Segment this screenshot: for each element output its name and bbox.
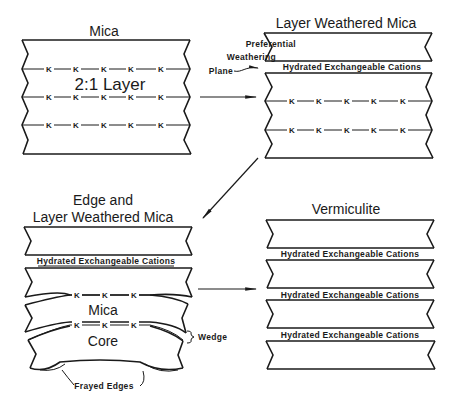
mica-row3-k-ion: K [158, 121, 164, 130]
mica-row1-k-ion: K [128, 65, 134, 74]
lw-row2-k-ion: K [316, 126, 322, 135]
edge-title-line1: Edge and [73, 192, 133, 208]
elw-row1-k-ion: K [74, 291, 80, 300]
mica-row2-k-ion: K [101, 93, 107, 102]
lw-lower-block [265, 73, 433, 158]
two-one-layer-label: 2:1 Layer [75, 75, 146, 94]
elw-row1-k-ion: K [131, 291, 137, 300]
mica-row2-k-ion: K [73, 93, 79, 102]
elw-row2-k-ion: K [131, 321, 137, 330]
panel-mica: Mica 2:1 Layer [22, 23, 191, 154]
vm-hec-label-2: Hydrated Exchangeable Cations [281, 290, 420, 300]
plane-label: Plane [209, 66, 233, 76]
lw-row1-k-ion: K [316, 97, 322, 106]
mica-core-label-mica: Mica [88, 302, 118, 318]
elw-hec-label: Hydrated Exchangeable Cations [37, 256, 176, 266]
elw-row2-k-ion: K [74, 321, 80, 330]
lw-hec-label: Hydrated Exchangeable Cations [283, 62, 422, 72]
vm-block-1 [266, 220, 434, 248]
mica-row2-k-ion: K [158, 93, 164, 102]
vermiculite-title: Vermiculite [312, 201, 381, 217]
elw-row1-k-ion: K [102, 291, 108, 300]
vm-block-3 [266, 300, 434, 328]
lw-row1-k-ion: K [344, 97, 350, 106]
mica-row1-k-ion: K [46, 65, 52, 74]
arrow-diagonal [203, 158, 258, 218]
wedge-label: Wedge [198, 332, 227, 342]
vm-block-4 [266, 341, 435, 369]
vm-hec-label-1: Hydrated Exchangeable Cations [281, 249, 420, 259]
elw-top-block [24, 227, 192, 255]
lw-row2-k-ion: K [400, 126, 406, 135]
mica-row2-k-ion: K [128, 93, 134, 102]
lw-row1-k-ion: K [289, 97, 295, 106]
plane-pointer-arrow [234, 68, 258, 72]
mica-row1-k-ion: K [101, 65, 107, 74]
layer-weathered-title: Layer Weathered Mica [276, 15, 417, 31]
frayed-edges-label: Frayed Edges [74, 381, 133, 391]
mica-core-label-core: Core [88, 333, 119, 349]
mica-row3-k-ion: K [73, 121, 79, 130]
mica-row3-k-ion: K [101, 121, 107, 130]
mica-row2-k-ion: K [46, 93, 52, 102]
lw-row2-k-ion: K [371, 126, 377, 135]
lw-row2-k-ion: K [289, 126, 295, 135]
preferential-label: Preferential [246, 39, 296, 49]
panel-vermiculite: Vermiculite Hydrated Exchangeable Cation… [266, 201, 435, 369]
elw-row2-k-ion: K [102, 321, 108, 330]
mica-row3-k-ion: K [128, 121, 134, 130]
lw-row2-k-ion: K [344, 126, 350, 135]
mica-title: Mica [89, 23, 119, 39]
wedge-bracket [187, 331, 194, 343]
panel-edge-layer-weathered-mica: Edge and Layer Weathered Mica Hydrated E… [24, 192, 227, 391]
mica-row1-k-ion: K [158, 65, 164, 74]
edge-title-line2: Layer Weathered Mica [33, 209, 174, 225]
vm-block-2 [266, 260, 434, 288]
lw-row1-k-ion: K [400, 97, 406, 106]
vm-hec-label-3: Hydrated Exchangeable Cations [281, 330, 420, 340]
mica-row1-k-ion: K [73, 65, 79, 74]
mica-weathering-diagram: Mica 2:1 Layer Layer Weathered Mica [0, 0, 457, 394]
weathering-label: Weathering [227, 52, 276, 62]
mica-row3-k-ion: K [46, 121, 52, 130]
panel-layer-weathered-mica: Layer Weathered Mica Preferential Weathe… [209, 15, 433, 158]
lw-row1-k-ion: K [371, 97, 377, 106]
